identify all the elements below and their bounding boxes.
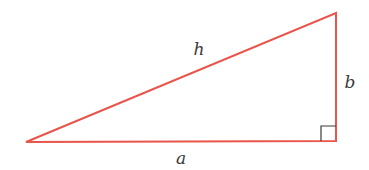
right-angle-marker bbox=[321, 126, 336, 141]
triangle-svg bbox=[0, 0, 369, 170]
triangle-shape bbox=[26, 13, 336, 142]
triangle-diagram: h b a bbox=[0, 0, 369, 170]
hypotenuse-label: h bbox=[194, 41, 205, 58]
vertical-leg-label: b bbox=[345, 74, 356, 91]
horizontal-leg-label: a bbox=[176, 150, 186, 167]
